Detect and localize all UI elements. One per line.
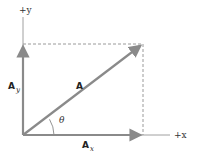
x-component-letter: A [82, 140, 89, 150]
angle-arc [50, 119, 55, 135]
x-component-label: Ax [82, 141, 94, 150]
angle-label: θ [59, 116, 64, 125]
diagram-graphics [0, 0, 197, 155]
x-component-subscript: x [90, 145, 94, 153]
y-component-label: Ay [8, 82, 20, 91]
y-axis-label: +y [19, 6, 32, 15]
vector-diagram: +y +x Ay A θ Ax [0, 0, 197, 155]
x-axis-label: +x [174, 131, 187, 140]
resultant-label: A [76, 82, 83, 91]
y-component-letter: A [8, 81, 15, 91]
y-component-subscript: y [16, 86, 20, 94]
